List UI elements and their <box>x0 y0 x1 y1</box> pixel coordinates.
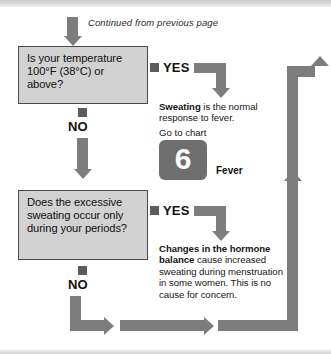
q2-yes-arrow-shaft-v <box>216 206 226 232</box>
right-riser-shaft <box>287 66 298 330</box>
outcome-fever-lead: Sweating <box>159 101 201 112</box>
answer-label-q2-yes: YES <box>163 203 190 218</box>
no-marker-square-q2 <box>78 266 87 275</box>
q1-yes-arrow-shaft-v <box>216 63 226 89</box>
right-riser-exit-head-icon <box>311 56 329 66</box>
continued-from-previous-page-note: Continued from previous page <box>88 17 218 28</box>
chart-number-value: 6 <box>175 144 192 174</box>
chart-number-tile-6[interactable]: 6 <box>159 140 207 180</box>
goto-chart-label: Go to chart <box>159 127 206 138</box>
chart-name-fever: Fever <box>216 165 243 176</box>
answer-label-q1-yes: YES <box>163 60 190 75</box>
q2-no-arrow-head-icon <box>104 317 114 335</box>
q1-yes-arrow-head-icon <box>212 88 230 98</box>
q2-yes-arrow-head-icon <box>212 231 230 241</box>
flowchart-page: Continued from previous page Is your tem… <box>0 0 331 354</box>
answer-label-q2-no: NO <box>68 277 88 292</box>
outcome-hormone-text: Changes in the hormone balance cause inc… <box>159 243 285 300</box>
q2-no-arrow-shaft-h <box>70 320 105 331</box>
bottom-connector-shaft <box>120 320 205 331</box>
question-box-periods-text: Does the excessive sweating occur only d… <box>27 196 140 236</box>
q1-no-arrow-head-icon <box>74 169 92 179</box>
yes-marker-square-q1 <box>150 63 159 72</box>
question-box-periods[interactable]: Does the excessive sweating occur only d… <box>18 190 148 260</box>
bottom-connector-tail-shaft <box>218 320 298 331</box>
right-riser-head-icon <box>284 171 302 181</box>
answer-label-q1-no: NO <box>68 119 88 134</box>
entry-arrow-head-icon <box>64 36 82 46</box>
bottom-connector-head-icon <box>204 317 214 335</box>
scan-edge-top <box>0 0 331 7</box>
q1-no-arrow-shaft <box>77 138 88 170</box>
outcome-fever-text: Sweating is the normal response to fever… <box>159 101 277 124</box>
question-box-temperature[interactable]: Is your temperature 100°F (38°C) or abov… <box>18 46 148 104</box>
scan-edge-bottom <box>0 349 331 354</box>
question-box-temperature-text: Is your temperature 100°F (38°C) or abov… <box>27 52 140 92</box>
yes-marker-square-q2 <box>150 206 159 215</box>
no-marker-square-q1 <box>78 108 87 117</box>
entry-arrow-shaft <box>67 17 78 37</box>
right-riser-top-elbow-shaft <box>287 66 315 77</box>
